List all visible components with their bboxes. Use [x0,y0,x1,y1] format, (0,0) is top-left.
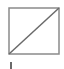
no-fill-icon [8,7,60,55]
text-caret-icon [10,62,12,69]
no-fill-swatch[interactable] [8,7,60,55]
